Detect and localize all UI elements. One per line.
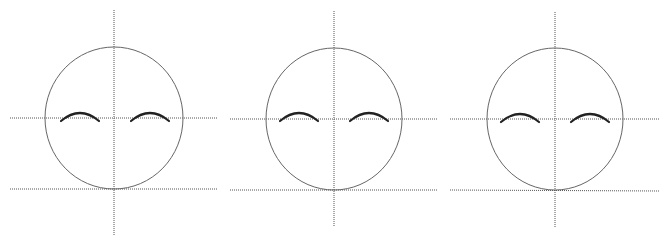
left-eyebrow: [501, 114, 539, 122]
face-panel-1: [10, 10, 218, 235]
left-eyebrow: [280, 113, 318, 121]
right-eyebrow: [131, 113, 169, 121]
left-eyebrow: [61, 113, 99, 121]
face-construction-diagram: [0, 0, 667, 250]
right-eyebrow: [571, 114, 609, 122]
right-eyebrow: [350, 113, 388, 121]
face-panel-3: [450, 12, 659, 227]
face-panel-2: [230, 11, 438, 226]
